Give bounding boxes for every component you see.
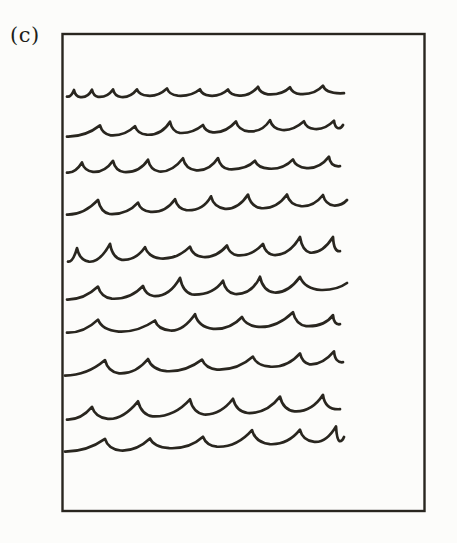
figure-panel-c: (c)	[0, 0, 457, 543]
wave-line	[65, 426, 344, 451]
wave-line	[67, 157, 340, 173]
wave-figure-svg	[0, 0, 457, 543]
wave-line	[67, 195, 347, 215]
wave-lines-group	[65, 86, 347, 452]
wave-line	[65, 351, 343, 375]
wave-line	[67, 86, 344, 97]
wave-line	[67, 312, 340, 332]
wave-line	[67, 120, 343, 137]
wave-line	[67, 395, 340, 420]
wave-line	[68, 237, 340, 262]
wave-line	[67, 277, 347, 300]
